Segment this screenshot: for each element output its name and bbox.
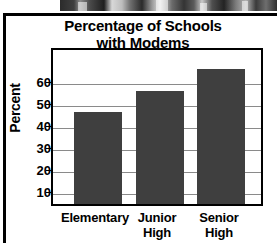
bar-elementary	[74, 112, 122, 204]
chart-title-line-1: Percentage of Schools	[18, 17, 268, 34]
plot-area	[51, 48, 263, 206]
chart-figure: Percentage of Schools with Modems Percen…	[0, 0, 277, 243]
chart-title: Percentage of Schools with Modems	[18, 17, 268, 51]
chart-content: Percentage of Schools with Modems Percen…	[0, 0, 277, 243]
bar-senior-high	[197, 69, 245, 204]
bar-junior-high	[136, 91, 184, 204]
x-tick-senior-line-2: High	[168, 225, 270, 240]
x-tick-label-senior-high: Senior High	[168, 210, 270, 240]
x-tick-senior-line-1: Senior	[168, 210, 270, 225]
y-axis-ticks: 60 50 40 30 20 10	[19, 48, 51, 206]
